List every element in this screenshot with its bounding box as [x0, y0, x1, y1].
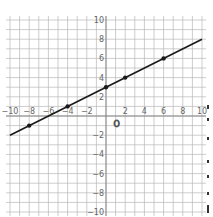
y-tick-label: −2: [92, 131, 104, 140]
axes: [6, 16, 206, 216]
x-tick-label: −2: [81, 107, 93, 116]
coordinate-grid: −10−8−6−4−2246810108642−2−4−6−8−10 O: [0, 0, 213, 217]
y-tick-label: 8: [99, 35, 104, 44]
y-tick-label: −6: [92, 170, 104, 179]
y-tick-label: 4: [99, 74, 104, 83]
data-point: [27, 123, 31, 127]
data-point: [161, 56, 165, 60]
y-tick-label: 2: [99, 93, 104, 102]
x-tick-label: −10: [2, 107, 19, 116]
data-point: [123, 75, 127, 79]
origin-label: O: [114, 120, 120, 129]
x-tick-label: 8: [180, 107, 185, 116]
y-tick-label: 10: [94, 16, 104, 25]
y-tick-label: −4: [92, 150, 104, 159]
x-tick-label: 2: [123, 107, 128, 116]
x-tick-label: 6: [161, 107, 166, 116]
x-tick-label: 4: [142, 107, 147, 116]
y-tick-label: 6: [99, 54, 104, 63]
y-tick-label: −10: [87, 208, 104, 217]
y-tick-label: −8: [92, 189, 104, 198]
data-point: [65, 104, 69, 108]
x-tick-label: −8: [23, 107, 35, 116]
cropped-page-edge: [206, 0, 213, 217]
data-point: [104, 85, 108, 89]
